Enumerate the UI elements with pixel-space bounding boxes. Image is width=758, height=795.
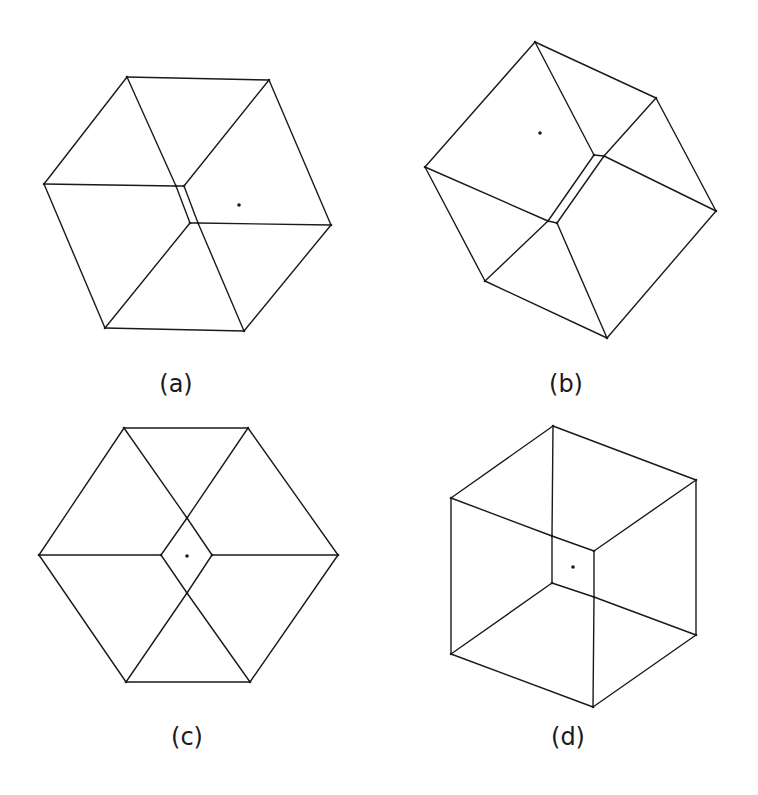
cube-edge: [594, 480, 696, 551]
vertex-point: [450, 497, 453, 500]
figure-c-cube-projection: [38, 427, 340, 684]
cube-edge: [594, 155, 604, 156]
vertex-point: [534, 41, 537, 44]
cube-edge: [127, 77, 269, 80]
vertex-point: [43, 183, 46, 186]
cube-edge: [250, 555, 338, 682]
vertex-point: [211, 554, 214, 557]
cube-edge: [44, 77, 127, 184]
cube-edge: [184, 80, 269, 186]
vertex-point: [186, 517, 189, 520]
cube-projections-diagram: (a) (b) (c) (d): [0, 0, 758, 795]
cube-edge: [184, 186, 198, 223]
cube-edge: [248, 428, 338, 555]
vertex-point: [484, 280, 487, 283]
cube-edge: [124, 428, 187, 518]
cube-edge: [485, 221, 548, 281]
cube-edge: [187, 555, 212, 593]
vertex-point: [593, 596, 596, 599]
vertex-point: [186, 592, 189, 595]
vertex-point: [104, 327, 107, 330]
cube-edge: [39, 428, 124, 555]
vertex-point: [268, 79, 271, 82]
vertex-point: [38, 554, 41, 557]
cube-edge: [593, 635, 696, 707]
vertex-point: [556, 222, 559, 225]
vertex-point: [243, 330, 246, 333]
cube-edge: [44, 184, 176, 186]
cube-edge: [552, 583, 594, 597]
cube-edge: [105, 328, 244, 331]
cube-edge: [553, 426, 696, 480]
vertex-point: [197, 222, 200, 225]
cube-edge: [557, 223, 607, 338]
cube-edge: [269, 80, 331, 225]
vertex-point: [695, 634, 698, 637]
cube-edge: [44, 184, 105, 328]
cube-edge: [187, 518, 212, 555]
cube-edge: [451, 583, 552, 654]
cube-edge: [451, 426, 553, 498]
cube-edge: [607, 211, 716, 338]
vertex-point: [551, 535, 554, 538]
cube-edge: [451, 498, 552, 536]
vertex-point: [547, 220, 550, 223]
center-point-marker: [237, 203, 241, 207]
figure-a-cube-projection: [43, 76, 333, 333]
vertex-point: [695, 479, 698, 482]
vertex-point: [593, 550, 596, 553]
vertex-point: [552, 425, 555, 428]
cube-edge: [604, 98, 656, 156]
cube-edge: [593, 597, 594, 707]
figure-c-label: (c): [171, 723, 203, 751]
cube-edge: [425, 167, 485, 281]
cube-edge: [535, 42, 656, 98]
center-point-marker: [185, 554, 189, 558]
vertex-point: [592, 706, 595, 709]
center-point-marker: [538, 131, 542, 135]
vertex-point: [424, 166, 427, 169]
figure-a-label: (a): [159, 370, 192, 398]
vertex-point: [551, 582, 554, 585]
vertex-point: [655, 97, 658, 100]
vertex-point: [603, 155, 606, 158]
cube-edge: [656, 98, 716, 211]
cube-edge: [187, 593, 250, 682]
cube-edge: [557, 156, 604, 223]
cube-edge: [548, 221, 557, 223]
vertex-point: [247, 427, 250, 430]
figure-b-cube-projection: [424, 41, 718, 340]
figure-d-label: (d): [551, 723, 585, 751]
vertex-point: [249, 681, 252, 684]
cube-edge: [425, 42, 535, 167]
vertex-point: [606, 337, 609, 340]
vertex-point: [450, 653, 453, 656]
cube-edge: [552, 536, 594, 551]
figure-d-cube-projection: [450, 425, 698, 709]
cube-edge: [126, 593, 187, 682]
cube-edge: [535, 42, 594, 155]
cube-edge: [161, 518, 187, 555]
cube-edge: [244, 225, 331, 331]
vertex-point: [330, 224, 333, 227]
vertex-point: [126, 76, 129, 79]
center-point-marker: [571, 565, 575, 569]
vertex-point: [715, 210, 718, 213]
vertex-point: [175, 185, 178, 188]
cube-edge: [451, 654, 593, 707]
vertex-point: [189, 222, 192, 225]
cube-edge: [604, 156, 716, 211]
cube-edge: [552, 426, 553, 536]
vertex-point: [125, 681, 128, 684]
vertex-point: [183, 185, 186, 188]
cube-edge: [425, 167, 548, 221]
cube-edge: [548, 155, 594, 221]
cube-edge: [594, 597, 696, 635]
vertex-point: [593, 154, 596, 157]
vertex-point: [123, 427, 126, 430]
cube-edge: [39, 555, 126, 682]
cube-edge: [105, 223, 190, 328]
vertex-point: [337, 554, 340, 557]
cube-edge: [198, 223, 331, 225]
vertex-point: [160, 554, 163, 557]
